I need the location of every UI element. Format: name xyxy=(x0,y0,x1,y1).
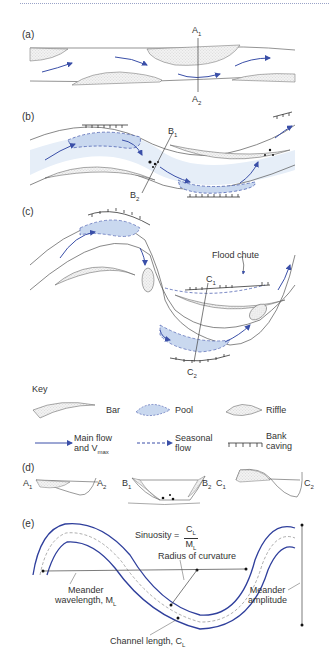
radius-of-curvature-label: Radius of curvature xyxy=(158,551,236,561)
panel-d-label: (d) xyxy=(22,462,34,473)
key-main-flow-label: Main flowand Vmax xyxy=(74,433,112,457)
panel-e xyxy=(33,524,304,636)
panel-e-label: (e) xyxy=(22,518,34,529)
key-seasonal-flow-label: Seasonalflow xyxy=(175,433,213,453)
key-bar-label: Bar xyxy=(106,405,120,415)
section-b1-label: B1 xyxy=(168,126,177,140)
section-d-b1: B1 xyxy=(122,478,131,492)
meander-amplitude-label: Meanderamplitude xyxy=(248,585,287,605)
sinuosity-label: Sinuosity = xyxy=(135,530,179,540)
pool-icon xyxy=(136,404,170,415)
key-riffle-label: Riffle xyxy=(266,405,286,415)
section-d-b2: B2 xyxy=(202,478,211,492)
panel-b xyxy=(30,112,295,197)
section-d-c2: C2 xyxy=(304,478,314,492)
channel-length-label: Channel length, CL xyxy=(110,636,185,650)
panel-c xyxy=(30,208,295,363)
section-a1-label: A1 xyxy=(192,25,201,39)
panel-d xyxy=(36,469,302,504)
panel-c-label: (c) xyxy=(22,206,34,217)
panel-a xyxy=(30,38,295,92)
bank-caving-icon xyxy=(228,443,262,447)
sinuosity-fraction: CLML xyxy=(184,524,198,553)
section-d-a1: A1 xyxy=(23,478,32,492)
meander-wavelength-label: Meanderwavelength, ML xyxy=(55,585,116,609)
flood-chute-label: Flood chute xyxy=(212,250,259,260)
key-title: Key xyxy=(32,384,48,394)
section-d-c1: C1 xyxy=(216,478,226,492)
key-legend xyxy=(33,402,262,447)
riffle-icon xyxy=(226,404,262,415)
panel-b-label: (b) xyxy=(22,111,34,122)
section-a2-label: A2 xyxy=(192,94,201,108)
key-bank-caving-label: Bankcaving xyxy=(266,431,292,451)
section-b2-label: B2 xyxy=(130,190,139,204)
key-pool-label: Pool xyxy=(175,405,193,415)
panel-a-label: (a) xyxy=(22,29,34,40)
bar-icon xyxy=(33,402,95,418)
section-c2-label: C2 xyxy=(187,367,197,381)
section-d-a2: A2 xyxy=(97,478,106,492)
section-c1-label: C1 xyxy=(206,274,216,288)
